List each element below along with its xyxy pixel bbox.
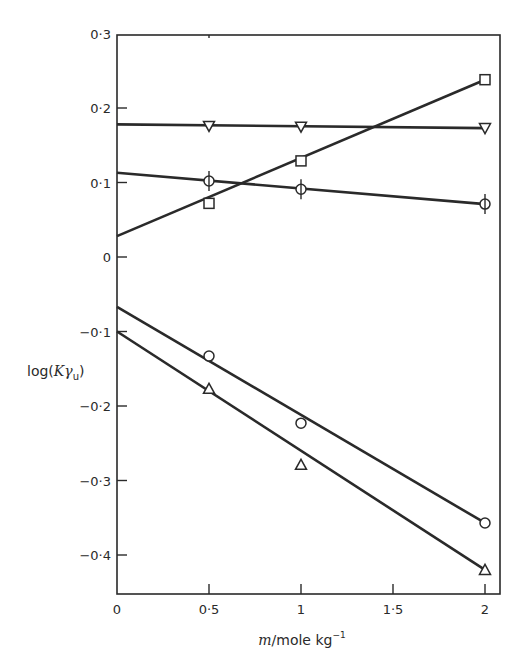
- y-tick-label: −0·3: [79, 474, 111, 489]
- circle-marker-icon: [480, 518, 490, 528]
- circle-bar-marker-icon: [204, 171, 214, 191]
- plot-frame: [117, 35, 500, 594]
- y-tick-label: 0·3: [90, 27, 111, 42]
- circle-marker-icon: [204, 351, 214, 361]
- y-tick-label: 0·2: [90, 101, 111, 116]
- x-tick-label: 1: [297, 602, 305, 617]
- fit-lines: [117, 80, 485, 570]
- y-axis-label: log(Kγu): [27, 363, 84, 382]
- x-tick-label: 0: [113, 602, 121, 617]
- y-tick-label: −0·4: [79, 548, 111, 563]
- triangle-up-marker-icon: [296, 459, 307, 469]
- x-axis-label: m/mole kg−1: [258, 630, 345, 648]
- square-marker-icon: [204, 198, 214, 208]
- fit-line-circle: [117, 307, 485, 523]
- x-tick-label: 2: [481, 602, 489, 617]
- fit-line-triangle: [117, 332, 485, 570]
- square-marker-icon: [480, 75, 490, 85]
- plot-area-border: [117, 35, 500, 594]
- y-tick-label: −0·1: [79, 325, 111, 340]
- circle-bar-marker-icon: [296, 179, 306, 199]
- x-tick-label: 1·5: [383, 602, 404, 617]
- circle-marker-icon: [296, 418, 306, 428]
- square-marker-icon: [296, 156, 306, 166]
- circle-bar-marker-icon: [480, 194, 490, 214]
- x-tick-label: 0·5: [199, 602, 220, 617]
- y-tick-label: 0·1: [90, 176, 111, 191]
- y-tick-label: 0: [103, 250, 111, 265]
- chart: 00·511·52 0·30·20·10−0·1−0·2−0·3−0·4 m/m…: [0, 0, 520, 671]
- y-axis: 0·30·20·10−0·1−0·2−0·3−0·4: [79, 27, 127, 564]
- y-tick-label: −0·2: [79, 399, 111, 414]
